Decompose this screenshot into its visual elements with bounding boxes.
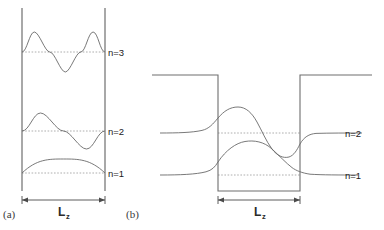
dimension-subscript-b: z (262, 212, 266, 221)
state-label-n1-b: n=1 (345, 170, 361, 181)
wavefunction-n1-b (160, 141, 358, 175)
dimension-subscript-a: z (66, 212, 70, 221)
state-label-n2-a: n=2 (108, 126, 124, 137)
wavefunction-n2-b (160, 107, 362, 157)
dimension-label-a: L (58, 205, 65, 219)
state-label-n2-b: n=2 (345, 128, 361, 139)
quantum-well-figure: n=3 n=2 n=1 L z (a) (0, 0, 384, 230)
panel-b-baselines (218, 133, 300, 175)
panel-b: n=2 n=1 L z (b) (126, 75, 372, 221)
panel-a: n=3 n=2 n=1 L z (a) (3, 8, 124, 221)
panel-a-baselines (22, 52, 105, 173)
dimension-arrow-a (22, 196, 105, 204)
state-label-n1-a: n=1 (108, 168, 124, 179)
state-label-n3-a: n=3 (108, 47, 124, 58)
dimension-arrow-b (218, 196, 300, 204)
panel-letter-a: (a) (3, 208, 16, 221)
wavefunction-n1-a (22, 159, 105, 173)
figure-container: n=3 n=2 n=1 L z (a) (0, 0, 384, 230)
dimension-label-b: L (254, 205, 261, 219)
panel-letter-b: (b) (126, 208, 139, 221)
